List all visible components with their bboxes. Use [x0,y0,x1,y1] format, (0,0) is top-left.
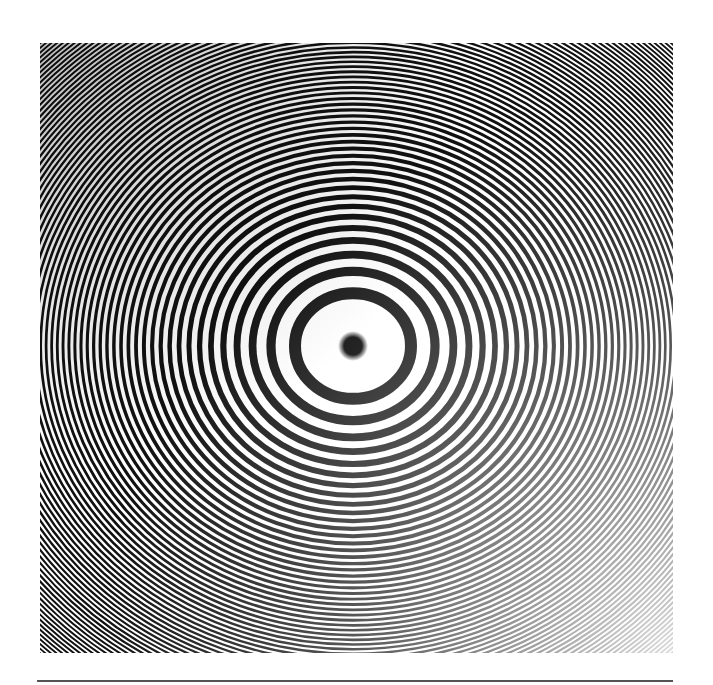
bottom-right-fade [40,43,673,653]
newtons-rings-pattern [40,43,673,653]
interference-fringe-photo [40,43,673,653]
horizontal-rule-line [37,680,673,682]
